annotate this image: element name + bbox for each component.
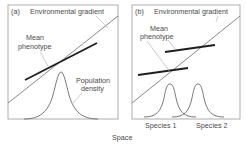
panel-b-tag: (b) [135, 7, 144, 16]
panel-a: (a) Environmental gradient Mean phenotyp… [8, 5, 118, 119]
diagram-canvas: (a) Environmental gradient Mean phenotyp… [0, 0, 246, 146]
panel-b-species1-phenotype-line [138, 68, 188, 75]
panel-a-density-label-2: density [81, 84, 104, 93]
panel-a-density-leader [72, 93, 82, 104]
panel-b-species2-density-curve [172, 84, 224, 117]
panel-a-phenotype-label-1: Mean [26, 33, 44, 42]
panel-a-tag: (a) [11, 7, 20, 16]
panel-a-phenotype-label-2: phenotype [18, 42, 52, 51]
panel-a-gradient-label: Environmental gradient [30, 7, 104, 16]
panel-b-gradient-label: Environmental gradient [154, 7, 228, 16]
panel-b-gradient-line [132, 16, 240, 103]
panel-b-phenotype-leader-upper [168, 40, 176, 50]
panel-b-phenotype-leader-lower [147, 41, 170, 72]
panel-b: (b) Environmental gradient Mean phenotyp… [132, 5, 240, 119]
panel-b-species1-density-curve [144, 84, 196, 117]
panel-a-frame [8, 5, 118, 119]
panel-b-phenotype-label-2: phenotype [140, 32, 174, 41]
species-2-label: Species 2 [196, 121, 228, 130]
x-axis-label: Space [112, 133, 132, 142]
panel-b-frame [132, 5, 240, 119]
panel-b-gradient-leader [216, 16, 218, 22]
species-1-label: Species 1 [145, 121, 177, 130]
panel-a-phenotype-leader [40, 52, 48, 66]
panel-a-gradient-leader [96, 16, 108, 28]
